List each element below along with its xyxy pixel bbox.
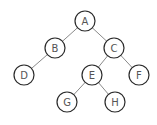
edge-e-h [98,83,108,95]
node-label: B [52,43,59,54]
node-label: E [89,70,95,81]
tree-node-a: A [75,11,95,31]
node-label: H [111,97,119,108]
node-label: D [20,70,28,81]
tree-node-e: E [82,65,102,85]
node-label: C [111,43,118,54]
tree-node-h: H [105,92,125,112]
edge-a-c [92,28,106,41]
node-label: G [63,97,71,108]
tree-node-c: C [104,38,124,58]
binary-tree-diagram: ABCDEFGH [0,0,157,125]
edge-b-d [32,55,48,69]
tree-nodes: ABCDEFGH [14,11,149,112]
tree-node-d: D [14,65,34,85]
edge-e-g [74,82,85,94]
tree-node-g: G [57,92,77,112]
edge-c-e [98,56,107,67]
tree-edges [32,28,133,95]
edge-c-f [121,55,132,67]
node-label: F [136,70,142,81]
tree-node-f: F [129,65,149,85]
tree-node-b: B [45,38,65,58]
node-label: A [82,16,89,27]
edge-a-b [62,28,77,42]
